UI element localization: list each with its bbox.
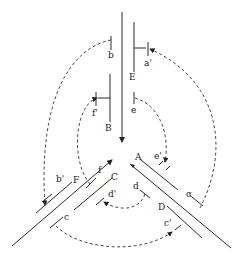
label-C: C [111,172,118,182]
strand-main-left [12,160,112,246]
diagram-canvas: E a' b B f' e A e' α D c' d C d' F b' f … [0,0,239,264]
strand-f [86,178,96,188]
label-A: A [134,152,142,162]
label-b-prime: b' [56,174,64,184]
label-D: D [158,202,165,212]
label-e: e [131,105,136,115]
bar-d-prime [96,198,104,205]
strand-D [167,206,202,238]
label-f: f [98,165,102,175]
label-d: d [133,181,139,191]
label-F: F [73,175,79,185]
bar-e-prime-1 [159,161,163,165]
label-alpha: α [186,189,192,199]
label-B: B [105,123,112,133]
label-b: b [108,50,114,60]
label-e-prime: e' [154,151,162,161]
strand-F [36,182,72,213]
bar-e-prime-2 [166,166,170,170]
label-f-prime: f' [92,108,98,118]
label-c: c [64,212,69,222]
label-d-prime: d' [108,189,116,199]
bar-c-prime [175,225,181,230]
dash-alpha-to-a-prime [150,49,216,208]
strand-main-right [130,164,231,248]
strand-alpha [192,197,203,206]
label-c-prime: c' [164,218,172,228]
junction-diagram: E a' b B f' e A e' α D c' d C d' F b' f … [0,0,239,264]
label-a-prime: a' [144,58,152,68]
strand-C [74,178,112,210]
label-E: E [129,72,136,82]
dash-c-to-c-prime [56,226,172,247]
